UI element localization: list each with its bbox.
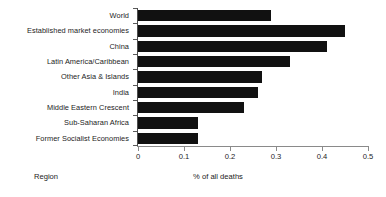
x-axis-tick-label: 0.5: [363, 151, 374, 162]
y-axis-label-other-asia-islands: Other Asia & Islands: [0, 69, 133, 84]
x-axis-tick-label: 0.4: [317, 151, 328, 162]
bar-chart: World Established market economies China…: [0, 0, 386, 197]
bar-china: [138, 41, 327, 53]
bar-row: [138, 100, 368, 115]
bar-former-socialist-economies: [138, 133, 198, 145]
bar-middle-eastern-crescent: [138, 102, 244, 114]
y-axis-category-labels: World Established market economies China…: [0, 8, 133, 146]
bar-row: [138, 69, 368, 84]
bar-row: [138, 115, 368, 130]
bar-row: [138, 54, 368, 69]
x-axis-tick-label: 0: [136, 151, 140, 162]
y-axis-label-world: World: [0, 8, 133, 23]
bar-row: [138, 131, 368, 146]
x-axis-tick-label: 0.3: [271, 151, 282, 162]
x-axis-tick-labels: 00.10.20.30.40.5: [138, 151, 368, 163]
bar-world: [138, 10, 271, 22]
bar-row: [138, 8, 368, 23]
bar-latin-america-caribbean: [138, 56, 290, 68]
bar-series: [138, 8, 368, 146]
bar-sub-saharan-africa: [138, 117, 198, 129]
y-axis-label-former-socialist-economies: Former Socialist Economies: [0, 131, 133, 146]
y-axis-title: Region: [34, 172, 58, 181]
x-axis-tick-label: 0.1: [179, 151, 190, 162]
bar-other-asia-islands: [138, 71, 262, 83]
bar-india: [138, 87, 258, 99]
y-axis-label-established-market-economies: Established market economies: [0, 23, 133, 38]
bar-row: [138, 39, 368, 54]
bar-established-market-economies: [138, 25, 345, 37]
x-axis-title: % of all deaths: [193, 172, 243, 181]
bar-row: [138, 23, 368, 38]
bar-row: [138, 85, 368, 100]
y-axis-label-latin-america-caribbean: Latin America/Caribbean: [0, 54, 133, 69]
y-axis-label-sub-saharan-africa: Sub-Saharan Africa: [0, 115, 133, 130]
x-axis-tick-label: 0.2: [225, 151, 236, 162]
plot-area: [138, 8, 368, 146]
y-axis-label-middle-eastern-crescent: Middle Eastern Crescent: [0, 100, 133, 115]
y-axis-label-india: India: [0, 85, 133, 100]
y-axis-label-china: China: [0, 39, 133, 54]
